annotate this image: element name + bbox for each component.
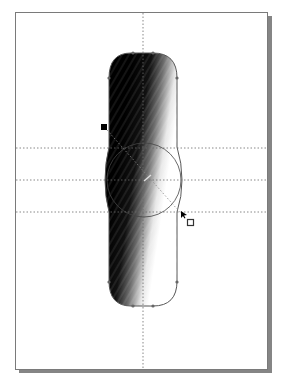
node-handle[interactable]: [175, 76, 178, 79]
capsule-texture: [105, 53, 182, 306]
fill-end-handle[interactable]: [188, 220, 194, 226]
node-handle[interactable]: [151, 51, 154, 54]
node-handle[interactable]: [107, 280, 110, 283]
node-handle[interactable]: [151, 304, 154, 307]
drawing-canvas[interactable]: [0, 0, 290, 384]
node-handle[interactable]: [131, 51, 134, 54]
node-handle[interactable]: [107, 76, 110, 79]
page-shadow-right: [268, 16, 272, 372]
node-handle[interactable]: [131, 304, 134, 307]
fill-start-handle[interactable]: [101, 124, 107, 130]
node-handle[interactable]: [175, 280, 178, 283]
